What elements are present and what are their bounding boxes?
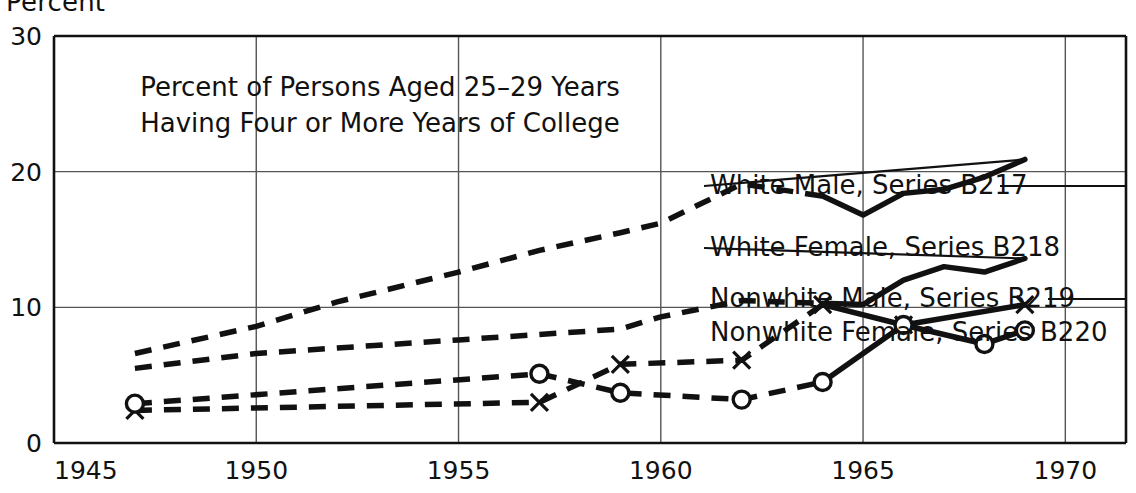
series-3-marker-circle: [531, 365, 548, 382]
series-3-marker-circle: [733, 391, 750, 408]
x-tick-label-1960: 1960: [629, 456, 693, 485]
chart-figure: Percent 0102030194519501955196019651970P…: [0, 0, 1136, 493]
series-3-marker-circle: [612, 384, 629, 401]
x-tick-label-1965: 1965: [831, 456, 895, 485]
y-tick-label-20: 20: [10, 158, 42, 187]
y-axis-unit-label: Percent: [6, 0, 105, 17]
y-tick-label-0: 0: [26, 429, 42, 458]
chart-title-line-2: Having Four or More Years of College: [140, 108, 619, 138]
legend-label-series-2: Nonwhite Male, Series B219: [710, 283, 1075, 313]
y-tick-label-30: 30: [10, 22, 42, 51]
legend-label-series-3: Nonwhite Female, Series B220: [710, 317, 1107, 347]
series-3-marker-circle: [814, 373, 831, 390]
chart-title-line-1: Percent of Persons Aged 25–29 Years: [140, 72, 620, 102]
x-tick-label-1970: 1970: [1034, 456, 1098, 485]
series-3-marker-circle: [126, 395, 143, 412]
legend-label-series-0: White Male, Series B217: [710, 170, 1028, 200]
x-tick-label-1955: 1955: [427, 456, 491, 485]
x-tick-label-1945: 1945: [54, 456, 118, 485]
line-chart-svg: 0102030194519501955196019651970Percent o…: [0, 0, 1136, 493]
x-tick-label-1950: 1950: [224, 456, 288, 485]
series-3-dashed-line: [135, 374, 823, 404]
y-tick-label-10: 10: [10, 293, 42, 322]
